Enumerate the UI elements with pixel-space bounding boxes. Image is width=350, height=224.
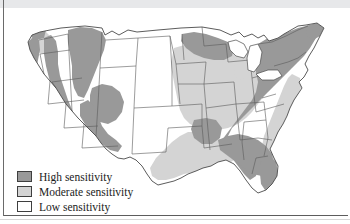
legend-item-low: Low sensitivity (17, 199, 133, 214)
legend-swatch-high (17, 171, 32, 182)
legend-swatch-moderate (17, 186, 32, 197)
page-scan-bottom-rule (4, 215, 348, 216)
screenshot-root: High sensitivity Moderate sensitivity Lo… (0, 0, 350, 224)
legend-label-low: Low sensitivity (39, 201, 110, 213)
map-legend: High sensitivity Moderate sensitivity Lo… (17, 169, 133, 214)
page-scan-top-band (0, 0, 350, 8)
legend-item-moderate: Moderate sensitivity (17, 184, 133, 199)
page-scan-left-rule (3, 0, 4, 216)
page-scan-bottom-rule-secondary (0, 219, 350, 220)
legend-label-moderate: Moderate sensitivity (39, 186, 133, 198)
legend-item-high: High sensitivity (17, 169, 133, 184)
legend-label-high: High sensitivity (39, 171, 112, 183)
legend-swatch-low (17, 201, 32, 212)
map-figure: High sensitivity Moderate sensitivity Lo… (6, 8, 346, 214)
